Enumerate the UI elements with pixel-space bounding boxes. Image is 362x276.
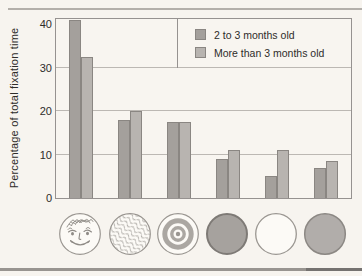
legend-label-2-to-3: 2 to 3 months old — [214, 29, 295, 41]
legend-swatch-2-to-3 — [195, 29, 206, 40]
bar-bullseye-disc-series-0 — [167, 122, 179, 198]
legend-item-2-to-3: 2 to 3 months old — [195, 29, 351, 41]
dark-disc-stimulus-icon — [205, 212, 249, 256]
wavy-texture-stimulus-icon — [108, 212, 152, 256]
bar-white-plain-disc-series-1 — [277, 150, 289, 198]
bar-bullseye-disc-series-1 — [179, 122, 191, 198]
bottom-rule — [0, 268, 306, 271]
bar-schematic-face-disc-series-0 — [69, 20, 81, 198]
white-disc-stimulus-icon — [254, 212, 298, 256]
y-tick-20: 20 — [40, 105, 52, 117]
legend-item-more-than-3: More than 3 months old — [195, 47, 351, 59]
figure: Percentage of total fixation time 2 to 3… — [0, 0, 362, 276]
gray-disc-stimulus-icon — [303, 212, 347, 256]
y-axis-title: Percentage of total fixation time — [8, 28, 20, 189]
bar-wavy-texture-disc-series-1 — [130, 111, 142, 198]
top-rule — [8, 8, 362, 10]
bar-schematic-face-disc-series-1 — [81, 57, 93, 198]
face-stimulus-icon — [58, 212, 102, 256]
bar-wavy-texture-disc-series-0 — [118, 120, 130, 198]
legend: 2 to 3 months old More than 3 months old — [177, 19, 351, 68]
legend-swatch-more-than-3 — [195, 47, 206, 58]
bar-gray-plain-disc-series-0 — [314, 168, 326, 198]
bottom-rule-dark-segment — [306, 268, 362, 271]
gridline-20 — [56, 110, 351, 111]
bar-group-schematic-face-disc — [69, 19, 93, 198]
bar-dark-plain-disc-series-0 — [216, 159, 228, 198]
y-tick-10: 10 — [40, 149, 52, 161]
bullseye-stimulus-icon — [156, 212, 200, 256]
y-tick-30: 30 — [40, 62, 52, 74]
gridline-10 — [56, 154, 351, 155]
plot-area: 2 to 3 months old More than 3 months old — [55, 18, 352, 199]
bar-gray-plain-disc-series-1 — [326, 161, 338, 198]
legend-label-more-than-3: More than 3 months old — [214, 47, 324, 59]
bar-white-plain-disc-series-0 — [265, 176, 277, 198]
y-tick-0: 0 — [46, 192, 52, 204]
y-tick-40: 40 — [40, 18, 52, 30]
bar-dark-plain-disc-series-1 — [228, 150, 240, 198]
bar-group-wavy-texture-disc — [118, 19, 142, 198]
